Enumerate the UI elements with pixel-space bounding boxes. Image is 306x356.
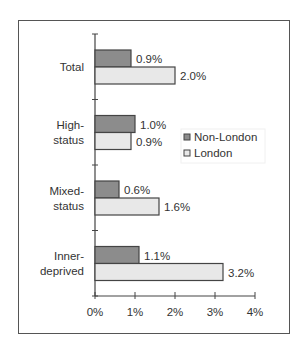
legend-label: Non-London (194, 131, 257, 143)
x-tick-label: 4% (247, 306, 264, 318)
category-label: High- (57, 119, 85, 131)
bar-london (95, 67, 175, 84)
legend-swatch-icon (184, 150, 190, 156)
bar-value-label: 0.9% (136, 53, 162, 65)
bar-chart: 0%1%2%3%4%0.9%2.0%Total1.0%0.9%High-stat… (0, 0, 306, 356)
bar-non-london (95, 116, 135, 133)
bar-london (95, 264, 223, 281)
x-tick-label: 3% (207, 306, 224, 318)
category-label: Inner- (54, 250, 84, 262)
bar-value-label: 1.6% (164, 201, 190, 213)
bar-london (95, 198, 159, 215)
bar-non-london (95, 247, 139, 264)
bar-value-label: 2.0% (180, 70, 206, 82)
bar-value-label: 0.9% (136, 136, 162, 148)
bar-non-london (95, 50, 131, 67)
bar-value-label: 1.1% (144, 250, 170, 262)
bar-value-label: 1.0% (140, 119, 166, 131)
bar-value-label: 3.2% (228, 267, 254, 279)
category-label: Mixed- (49, 185, 84, 197)
legend-label: London (194, 147, 232, 159)
bar-non-london (95, 181, 119, 198)
category-label: status (53, 200, 84, 212)
x-tick-label: 0% (87, 306, 104, 318)
bar-london (95, 133, 131, 150)
x-tick-label: 2% (167, 306, 184, 318)
category-label: deprived (40, 265, 84, 277)
category-label: status (53, 134, 84, 146)
x-tick-label: 1% (127, 306, 144, 318)
bar-value-label: 0.6% (124, 184, 150, 196)
category-label: Total (60, 61, 84, 73)
legend-swatch-icon (184, 134, 190, 140)
